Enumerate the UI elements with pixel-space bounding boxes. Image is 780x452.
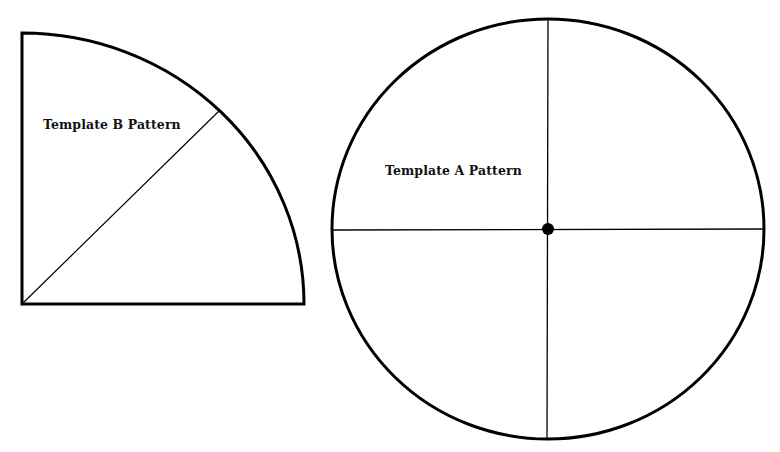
template-a-center-dot bbox=[542, 223, 554, 235]
template-a-shape bbox=[332, 19, 764, 439]
template-b-shape bbox=[22, 33, 304, 304]
template-a-label: Template A Pattern bbox=[385, 163, 522, 178]
template-b-diagonal bbox=[22, 111, 219, 304]
template-diagram bbox=[0, 0, 780, 452]
template-b-label: Template B Pattern bbox=[43, 117, 181, 132]
